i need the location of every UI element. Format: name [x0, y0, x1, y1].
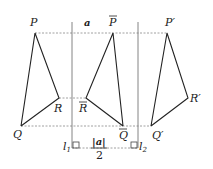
label-r-prime: R′ — [189, 92, 201, 105]
reflection-translation-diagram: P Q R P Q R P′ Q′ R′ a l1 l2 |a| 2 — [0, 0, 213, 169]
label-half-a-denominator: 2 — [96, 149, 103, 162]
label-p-bar: P — [108, 16, 117, 29]
label-r: R — [53, 102, 62, 115]
label-r-bar: R — [78, 102, 87, 115]
label-l1: l1 — [63, 140, 71, 154]
label-l2: l2 — [139, 140, 148, 154]
right-angle-marker-l1 — [73, 142, 79, 148]
right-angle-marker-l2 — [131, 142, 137, 148]
label-q-prime: Q′ — [152, 129, 164, 142]
label-q-bar: Q — [119, 129, 128, 142]
triangle-pqr-prime — [151, 33, 188, 126]
label-vector-a: a — [84, 17, 90, 28]
label-half-a-numerator: |a| — [92, 136, 106, 148]
triangle-pqr-bar — [86, 33, 123, 126]
label-p: P — [29, 16, 38, 29]
label-q: Q — [13, 128, 22, 141]
label-p-prime: P′ — [164, 16, 175, 29]
